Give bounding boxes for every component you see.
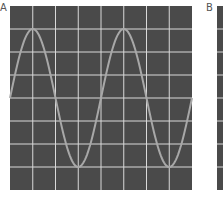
oscilloscope-chart — [0, 0, 223, 197]
